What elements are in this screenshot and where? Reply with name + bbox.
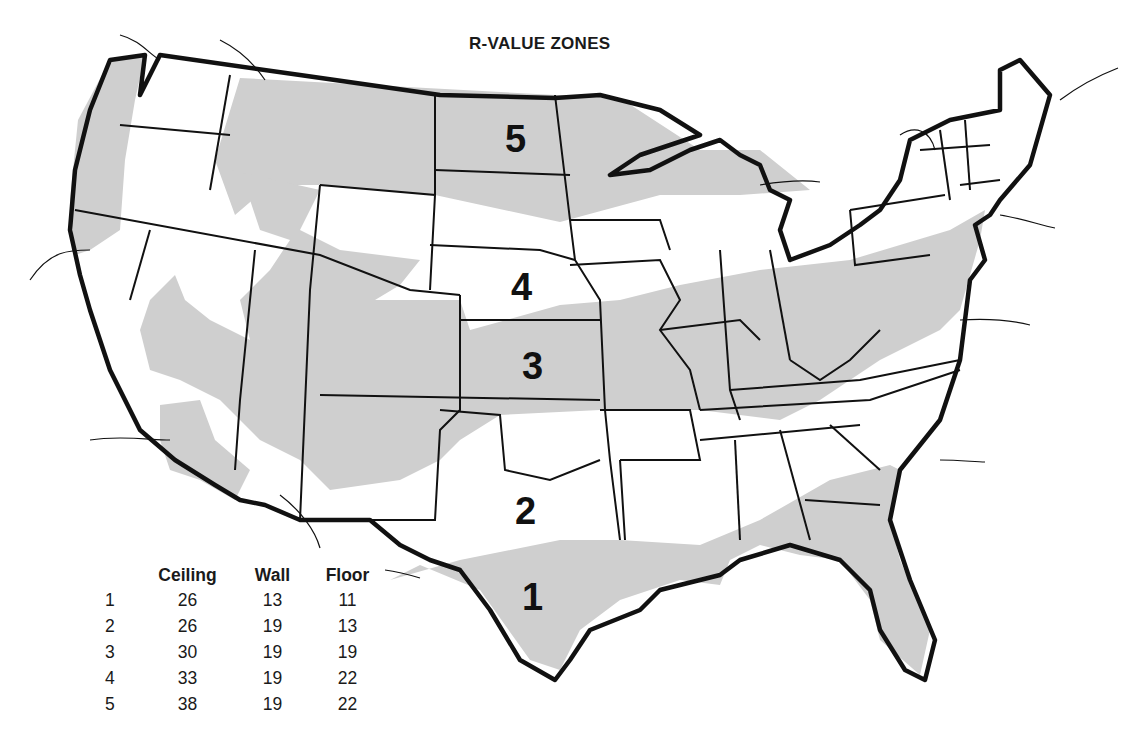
legend-ceiling: 26 (145, 587, 230, 613)
legend-wall: 19 (230, 691, 315, 717)
legend-ceiling: 30 (145, 639, 230, 665)
zone-label-2: 2 (515, 492, 536, 530)
legend-ceiling: 38 (145, 691, 230, 717)
legend-floor: 11 (315, 587, 380, 613)
zone-label-1: 1 (522, 578, 543, 616)
legend-header-floor: Floor (315, 563, 380, 587)
legend-row: 1 26 13 11 (105, 587, 380, 613)
legend-header-ceiling: Ceiling (145, 563, 230, 587)
legend-header-row: Ceiling Wall Floor (105, 563, 380, 587)
legend-floor: 19 (315, 639, 380, 665)
legend-zone: 5 (105, 691, 145, 717)
legend-wall: 13 (230, 587, 315, 613)
legend-ceiling: 26 (145, 613, 230, 639)
zone-label-4: 4 (511, 268, 532, 306)
legend-ceiling: 33 (145, 665, 230, 691)
legend-floor: 22 (315, 691, 380, 717)
legend-row: 2 26 19 13 (105, 613, 380, 639)
legend-header-zone (105, 563, 145, 587)
legend-header-wall: Wall (230, 563, 315, 587)
legend-zone: 1 (105, 587, 145, 613)
legend-zone: 3 (105, 639, 145, 665)
legend-floor: 13 (315, 613, 380, 639)
zone-label-5: 5 (505, 120, 526, 158)
legend-wall: 19 (230, 639, 315, 665)
legend-wall: 19 (230, 613, 315, 639)
map-title: R-VALUE ZONES (469, 34, 610, 54)
r-value-legend: Ceiling Wall Floor 1 26 13 11 2 26 19 13… (105, 563, 380, 717)
legend-row: 5 38 19 22 (105, 691, 380, 717)
legend-row: 4 33 19 22 (105, 665, 380, 691)
legend-floor: 22 (315, 665, 380, 691)
legend-wall: 19 (230, 665, 315, 691)
legend-zone: 4 (105, 665, 145, 691)
zone-label-3: 3 (522, 347, 543, 385)
legend-row: 3 30 19 19 (105, 639, 380, 665)
legend-zone: 2 (105, 613, 145, 639)
legend-table: Ceiling Wall Floor 1 26 13 11 2 26 19 13… (105, 563, 380, 717)
